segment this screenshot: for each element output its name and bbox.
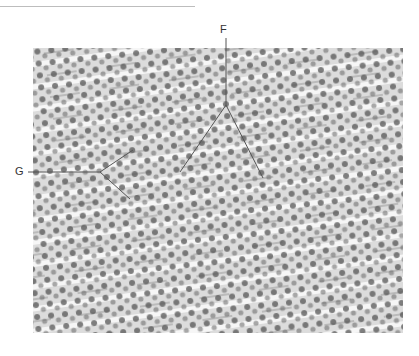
label-g: G: [15, 165, 24, 177]
label-f: F: [220, 23, 227, 35]
top-rule: [0, 6, 195, 7]
micrograph: [33, 48, 403, 333]
tissue-texture: [33, 48, 403, 333]
